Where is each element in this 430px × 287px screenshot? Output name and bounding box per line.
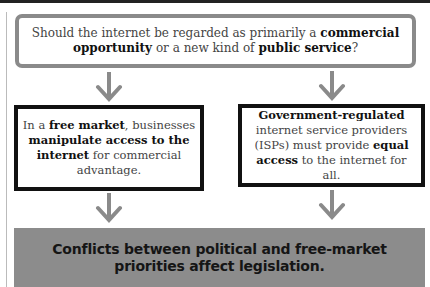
result-text: Conflicts between political and free-mar…	[50, 241, 390, 275]
government-regulated-box: Government-regulated internet service pr…	[238, 104, 425, 187]
arrow-down-icon	[94, 72, 124, 102]
free-market-text: In a free market, businesses manipulate …	[22, 118, 196, 178]
arrow-down-icon	[317, 190, 347, 220]
arrow-down-icon	[317, 71, 347, 101]
question-text: Should the internet be regarded as prima…	[19, 26, 412, 56]
arrow-down-icon	[94, 193, 124, 223]
result-banner: Conflicts between political and free-mar…	[14, 228, 425, 287]
question-box: Should the internet be regarded as prima…	[15, 14, 416, 68]
margin-line	[6, 12, 7, 287]
free-market-box: In a free market, businesses manipulate …	[14, 105, 204, 191]
top-rule	[0, 0, 430, 3]
government-regulated-text: Government-regulated internet service pr…	[246, 108, 417, 183]
